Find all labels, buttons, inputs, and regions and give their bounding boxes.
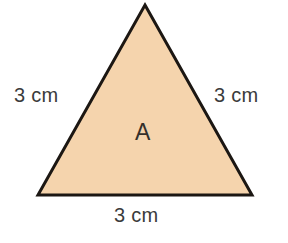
side-label-right: 3 cm	[214, 85, 259, 105]
side-label-left: 3 cm	[14, 85, 59, 105]
triangle-interior-label: A	[135, 121, 150, 144]
figure-root: 3 cm 3 cm 3 cm A	[0, 0, 288, 243]
side-label-bottom: 3 cm	[114, 205, 159, 225]
